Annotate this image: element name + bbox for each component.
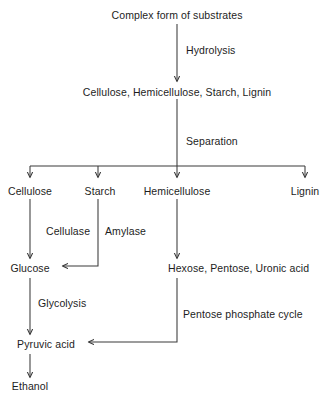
edge-label-pentose-phosphate-cycle: Pentose phosphate cycle <box>183 308 303 320</box>
node-cellulose: Cellulose <box>8 185 52 197</box>
edge-label-glycolysis: Glycolysis <box>38 297 86 309</box>
node-ethanol: Ethanol <box>12 380 48 392</box>
node-glucose: Glucose <box>10 262 49 274</box>
node-hemicellulose: Hemicellulose <box>144 185 211 197</box>
node-starch: Starch <box>85 185 116 197</box>
node-sugars: Hexose, Pentose, Uronic acid <box>168 262 309 274</box>
edge-label-cellulase: Cellulase <box>46 225 90 237</box>
node-complex-substrates: Complex form of substrates <box>112 9 243 21</box>
edge-label-hydrolysis: Hydrolysis <box>186 44 235 56</box>
flowchart-canvas: Complex form of substrates Cellulose, He… <box>0 0 326 400</box>
edge-label-separation: Separation <box>186 135 238 147</box>
node-lignin: Lignin <box>291 185 320 197</box>
edge-label-amylase: Amylase <box>105 225 146 237</box>
edge-sugars-to-pyruvic-acid <box>89 278 177 342</box>
node-pyruvic-acid: Pyruvic acid <box>17 338 75 350</box>
node-polymers: Cellulose, Hemicellulose, Starch, Lignin <box>83 86 271 98</box>
